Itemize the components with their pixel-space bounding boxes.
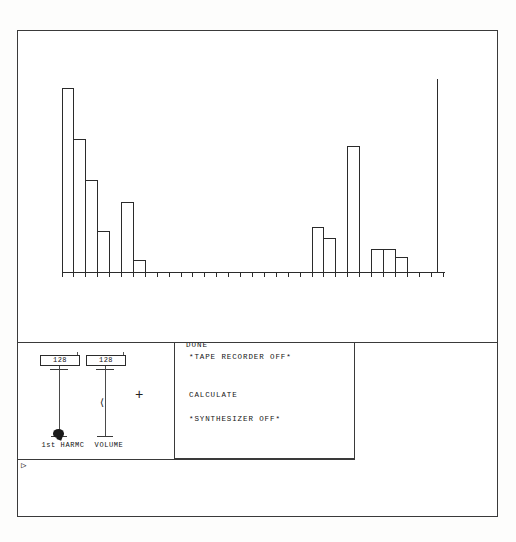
spectrum-bar[interactable]: [383, 250, 395, 272]
slider-value-box-volume[interactable]: 128: [86, 355, 126, 366]
control-band: 128 1st HARMC 128: [18, 343, 497, 517]
slider-value-volume: 128: [99, 356, 113, 364]
slider-track-1st-harmonic[interactable]: [59, 366, 60, 436]
slider-value-1st-harmonic: 128: [53, 356, 67, 364]
slider-value-box-1st-harmonic[interactable]: 128: [40, 355, 80, 366]
spectrum-plot[interactable]: DONE: [18, 31, 497, 342]
crt-screen: DONE 128 1st HARMC: [0, 0, 516, 542]
menu-item-tape-recorder[interactable]: *TAPE RECORDER OFF*: [189, 353, 292, 361]
spectrum-bar[interactable]: [372, 250, 384, 272]
spectrum-bar[interactable]: [98, 232, 110, 272]
slider-1st-harmonic[interactable]: 128 1st HARMC: [40, 355, 86, 366]
slider-volume[interactable]: 128 ⟨ VOLUME: [86, 355, 132, 366]
spectrum-bar[interactable]: [312, 228, 324, 272]
menu-item-synthesizer[interactable]: *SYNTHESIZER OFF*: [189, 415, 281, 423]
spectrum-bar[interactable]: [324, 239, 336, 272]
crosshair-cursor-icon: +: [135, 388, 143, 402]
command-prompt-panel[interactable]: ▷: [18, 459, 355, 517]
slider-scale-tick-icon: [123, 352, 124, 355]
spectrum-bar[interactable]: [62, 88, 74, 272]
spectrum-bar[interactable]: [86, 180, 98, 272]
spectrum-bar[interactable]: [395, 257, 407, 272]
slider-label-volume: VOLUME: [80, 441, 138, 449]
aux-panel[interactable]: [355, 343, 497, 517]
spectrum-bar[interactable]: [348, 147, 360, 272]
spectrum-bar[interactable]: [133, 261, 145, 272]
spectrum-bar-chart[interactable]: [18, 31, 497, 342]
drag-pointer-icon: ⟨: [99, 399, 106, 409]
spectrum-bar[interactable]: [122, 202, 134, 272]
slider-scale-tick-icon: [77, 352, 78, 355]
slider-handle-1st-harmonic[interactable]: [53, 429, 64, 438]
display-frame: DONE 128 1st HARMC: [17, 30, 498, 517]
menu-item-calculate[interactable]: CALCULATE: [189, 391, 238, 399]
command-menu-panel: *TAPE RECORDER OFF* CALCULATE *SYNTHESIZ…: [175, 343, 355, 459]
slider-panel: 128 1st HARMC 128: [18, 343, 175, 459]
slider-bottom-cap: [97, 436, 113, 437]
prompt-caret-icon: ▷: [21, 462, 26, 471]
spectrum-bar[interactable]: [74, 140, 86, 272]
